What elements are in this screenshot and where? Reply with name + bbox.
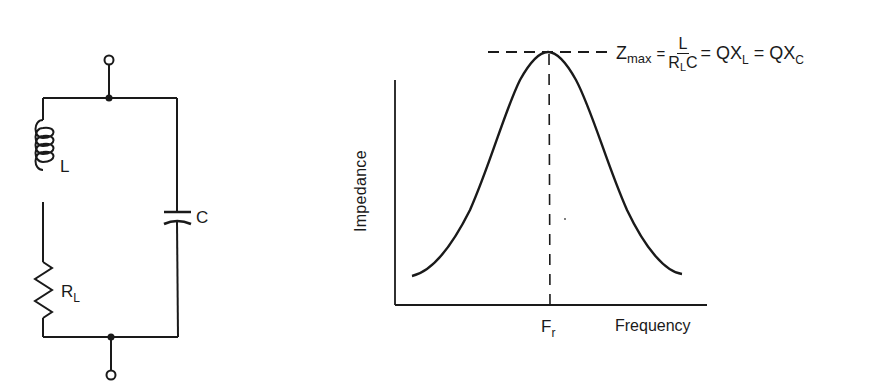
fr-label-main: F [541,317,551,336]
y-axis-label: Impedance [352,150,370,232]
equals-1: = [657,45,666,62]
impedance-curve [412,52,682,276]
fraction-denominator: RLC [668,54,697,72]
fr-tick-label: Fr [541,318,555,335]
qxc-term: = QX [754,43,796,64]
xl-subscript: L [742,53,749,67]
qxl-term: = QX [701,43,743,64]
fraction: L RLC [668,36,697,71]
x-axis-label: Frequency [615,318,691,334]
stray-dot [564,218,566,220]
zmax-formula: Zmax = L RLC = QXL = QXC [616,36,804,71]
fraction-numerator: L [677,36,690,54]
z-symbol: Z [616,43,627,64]
xc-subscript: C [795,53,804,67]
fr-dashed-line [549,54,550,305]
fr-label-subscript: r [551,326,555,340]
z-subscript: max [627,51,652,66]
